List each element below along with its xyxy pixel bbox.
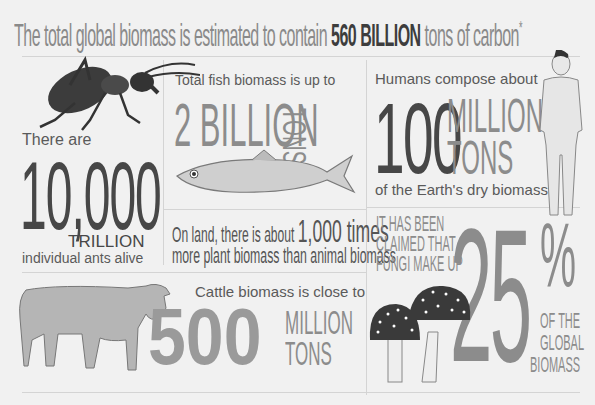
mushroom-illustration-icon (368, 282, 478, 392)
ants-unit: TRILLION (68, 232, 145, 252)
cattle-number: 500 (148, 297, 261, 377)
plants-line2: more plant biomass than animal biomass (172, 243, 396, 269)
humans-unit-line2: TONS (447, 134, 513, 182)
fish-illustration-icon (172, 148, 357, 200)
cattle-unit-line2: TONS (285, 336, 332, 370)
title-pre: The total global biomass is estimated to… (14, 17, 327, 53)
fungi-percent: % (540, 210, 576, 300)
title-bold: 560 BILLION (331, 17, 421, 53)
ant-illustration-icon (10, 55, 200, 135)
divider-lower (22, 272, 366, 273)
fish-intro: Total fish biomass is up to (175, 72, 335, 88)
human-illustration-icon (534, 50, 589, 220)
fungi-caption-line2: GLOBAL (540, 332, 584, 354)
divider-mid-center (164, 209, 366, 210)
ants-caption: individual ants alive (22, 250, 143, 266)
ants-number: 10,000 (20, 148, 161, 244)
title-post: tons of carbon (425, 17, 519, 53)
title-footnote-mark: * (519, 18, 522, 38)
page-title: The total global biomass is estimated to… (14, 12, 522, 51)
fungi-caption-line1: OF THE (540, 310, 580, 332)
fungi-caption-line3: BIOMASS (530, 354, 580, 376)
